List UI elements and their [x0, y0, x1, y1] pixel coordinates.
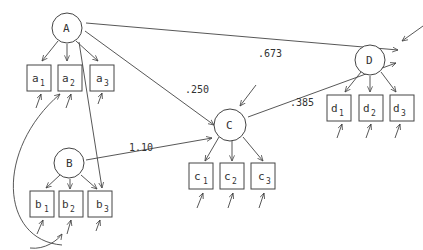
- svg-text:3: 3: [104, 79, 109, 88]
- svg-text:b: b: [35, 198, 42, 211]
- path-diagram: .673 .250 1.10 .385 A a 1 a 2 a 3 B b 1: [0, 0, 423, 250]
- latent-node-A: A: [52, 13, 82, 43]
- svg-text:2: 2: [232, 177, 237, 186]
- svg-text:d: d: [331, 102, 338, 115]
- latent-node-B: B: [54, 148, 84, 178]
- coef-A-C: .250: [185, 84, 209, 95]
- coef-C-D: .385: [290, 97, 314, 108]
- svg-text:D: D: [366, 54, 373, 67]
- svg-text:2: 2: [70, 79, 75, 88]
- indicator-d1: d 1: [327, 95, 351, 121]
- svg-text:3: 3: [266, 177, 271, 186]
- svg-text:B: B: [66, 157, 73, 170]
- svg-text:2: 2: [371, 109, 376, 118]
- svg-text:3: 3: [104, 205, 109, 214]
- disturbance-C: [240, 85, 256, 106]
- svg-text:a: a: [32, 72, 39, 85]
- svg-text:1: 1: [203, 177, 208, 186]
- disturbance-D: [402, 26, 423, 41]
- svg-text:c: c: [194, 170, 201, 183]
- indicator-d2: d 2: [359, 95, 383, 121]
- svg-text:1: 1: [44, 205, 49, 214]
- svg-text:c: c: [258, 170, 265, 183]
- coef-B-C: 1.10: [129, 142, 153, 153]
- svg-text:a: a: [96, 72, 103, 85]
- svg-text:C: C: [226, 119, 233, 132]
- indicator-c2: c 2: [220, 163, 244, 189]
- indicator-b3: b 3: [88, 191, 112, 217]
- svg-text:1: 1: [40, 79, 45, 88]
- indicator-a2: a 2: [58, 65, 82, 91]
- svg-text:b: b: [96, 198, 103, 211]
- svg-text:c: c: [224, 170, 231, 183]
- coef-A-D: .673: [258, 48, 282, 59]
- latent-node-C: C: [214, 109, 246, 141]
- svg-text:b: b: [62, 198, 69, 211]
- svg-text:1: 1: [339, 109, 344, 118]
- svg-text:2: 2: [70, 205, 75, 214]
- indicator-a3: a 3: [90, 65, 114, 91]
- curved-path-b2-a2: [13, 94, 62, 245]
- svg-text:d: d: [363, 102, 370, 115]
- svg-text:3: 3: [401, 109, 406, 118]
- indicator-b1: b 1: [30, 191, 54, 217]
- indicator-c3: c 3: [251, 163, 275, 189]
- indicator-b2: b 2: [59, 191, 83, 217]
- indicator-c1: c 1: [189, 163, 213, 189]
- svg-text:a: a: [62, 72, 69, 85]
- indicator-d3: d 3: [390, 95, 414, 121]
- path-A-D: [86, 23, 398, 50]
- indicator-a1: a 1: [27, 65, 51, 91]
- svg-text:d: d: [393, 102, 400, 115]
- svg-text:A: A: [63, 22, 70, 35]
- latent-node-D: D: [355, 45, 385, 75]
